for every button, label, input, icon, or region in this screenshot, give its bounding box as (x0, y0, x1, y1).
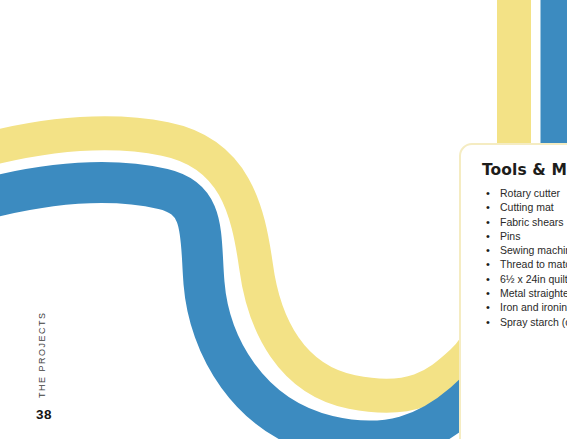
list-item-label: Fabric shears (500, 215, 564, 229)
list-item: • Cutting mat (486, 200, 567, 214)
list-item: • Iron and ironing board (486, 300, 567, 314)
list-item-label: 6½ x 24in quilting ruler (500, 272, 567, 286)
list-item-label: Spray starch (optional) (500, 315, 567, 329)
tools-materials-card: Tools & Materials • Rotary cutter • Cutt… (459, 143, 567, 439)
list-item: • Rotary cutter (486, 186, 567, 200)
bullet-icon: • (486, 243, 500, 257)
bullet-icon: • (486, 215, 500, 229)
bullet-icon: • (486, 229, 500, 243)
list-item: • Thread to match (486, 257, 567, 271)
list-item: • Pins (486, 229, 567, 243)
bullet-icon: • (486, 257, 500, 271)
bullet-icon: • (486, 272, 500, 286)
list-item-label: Rotary cutter (500, 186, 560, 200)
bullet-icon: • (486, 200, 500, 214)
card-title: Tools & Materials (482, 161, 567, 179)
section-label: THE PROJECTS (37, 311, 47, 398)
list-item: • Sewing machine (486, 243, 567, 257)
bullet-icon: • (486, 315, 500, 329)
list-item-label: Metal straightedge (500, 286, 567, 300)
list-item-label: Thread to match (500, 257, 567, 271)
bullet-icon: • (486, 186, 500, 200)
bullet-icon: • (486, 286, 500, 300)
book-page: { "page": { "section_label": "THE PROJEC… (0, 0, 567, 439)
list-item-label: Sewing machine (500, 243, 567, 257)
list-item-label: Cutting mat (500, 200, 554, 214)
list-item: • Fabric shears (486, 215, 567, 229)
list-item-label: Pins (500, 229, 520, 243)
list-item-label: Iron and ironing board (500, 300, 567, 314)
materials-list: • Rotary cutter • Cutting mat • Fabric s… (482, 186, 567, 329)
bullet-icon: • (486, 300, 500, 314)
list-item: • Spray starch (optional) (486, 315, 567, 329)
page-number: 38 (36, 407, 52, 422)
list-item: • 6½ x 24in quilting ruler (486, 272, 567, 286)
list-item: • Metal straightedge (486, 286, 567, 300)
